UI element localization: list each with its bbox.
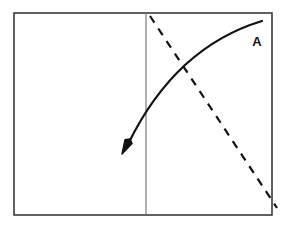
diagram-canvas: A — [0, 0, 290, 230]
figure-root: A — [0, 0, 290, 230]
curve-label-A: A — [252, 34, 262, 49]
